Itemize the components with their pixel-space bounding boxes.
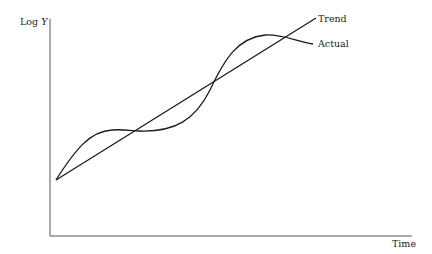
trend-line bbox=[56, 18, 316, 180]
y-axis-label: Log Y bbox=[20, 16, 49, 27]
legend-trend-label: Trend bbox=[318, 13, 347, 24]
chart-canvas: Log Y Trend Actual Time bbox=[0, 0, 432, 254]
legend-actual-label: Actual bbox=[317, 38, 349, 49]
actual-curve bbox=[56, 35, 313, 180]
x-axis-label: Time bbox=[392, 238, 416, 249]
